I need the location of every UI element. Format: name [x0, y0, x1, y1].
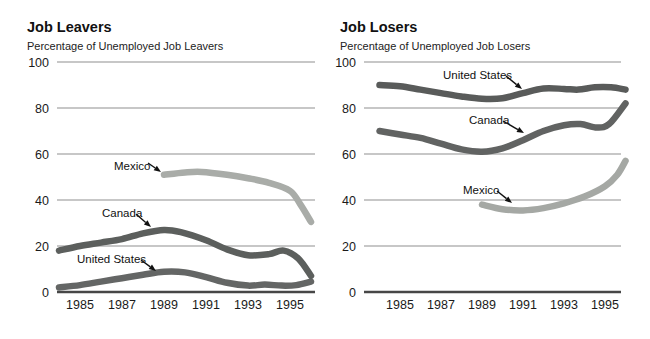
x-tick-label: 1995 — [591, 298, 619, 312]
y-tick-label: 40 — [35, 194, 49, 208]
y-tick-label: 80 — [35, 102, 49, 116]
series-line-mexico — [482, 161, 626, 211]
y-tick-label: 20 — [342, 240, 356, 254]
x-tick-label: 1985 — [386, 298, 414, 312]
y-tick-label: 40 — [342, 194, 356, 208]
y-tick-label: 60 — [342, 148, 356, 162]
x-tick-label: 1991 — [509, 298, 537, 312]
y-tick-label: 100 — [28, 56, 49, 70]
y-tick-label: 0 — [42, 286, 49, 300]
series-label-mexico: Mexico — [114, 160, 150, 172]
series-label-canada: Canada — [102, 207, 143, 219]
series-line-mexico — [164, 172, 311, 222]
job-losers-chart: 020406080100198519871989199119931995Unit… — [335, 56, 625, 313]
x-tick-label: 1987 — [108, 298, 136, 312]
series-label-canada: Canada — [469, 114, 510, 126]
series-line-canada — [380, 103, 626, 151]
series-line-united-states — [380, 85, 626, 99]
y-tick-label: 100 — [335, 56, 356, 70]
x-tick-label: 1989 — [150, 298, 178, 312]
job-leavers-chart: 020406080100198519871989199119931995Mexi… — [28, 56, 315, 313]
annotation-arrow-icon — [506, 76, 522, 89]
annotation-arrow-icon — [136, 214, 151, 227]
charts-canvas: 020406080100198519871989199119931995Mexi… — [0, 0, 650, 339]
series-label-mexico: Mexico — [463, 184, 499, 196]
x-tick-label: 1987 — [427, 298, 455, 312]
x-tick-label: 1985 — [66, 298, 94, 312]
x-tick-label: 1993 — [234, 298, 262, 312]
dual-line-chart-figure: Job Leavers Percentage of Unemployed Job… — [0, 0, 650, 339]
annotation-arrow-icon — [141, 260, 156, 271]
series-line-united-states — [59, 272, 311, 288]
series-label-united-states: United States — [443, 69, 512, 81]
series-label-united-states: United States — [77, 253, 146, 265]
y-tick-label: 20 — [35, 240, 49, 254]
x-tick-label: 1993 — [550, 298, 578, 312]
annotation-arrow-icon — [497, 191, 512, 203]
y-tick-label: 60 — [35, 148, 49, 162]
y-tick-label: 0 — [349, 286, 356, 300]
x-tick-label: 1995 — [276, 298, 304, 312]
x-tick-label: 1991 — [192, 298, 220, 312]
annotation-arrow-icon — [503, 121, 524, 133]
y-tick-label: 80 — [342, 102, 356, 116]
x-tick-label: 1989 — [468, 298, 496, 312]
